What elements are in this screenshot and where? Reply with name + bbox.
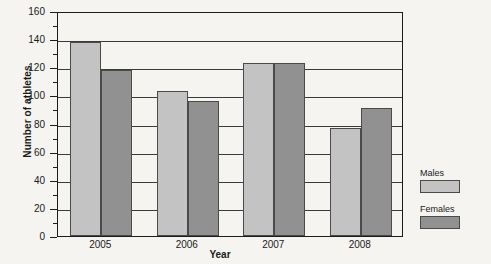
y-tick-major (50, 12, 57, 13)
y-tick-major (50, 40, 57, 41)
legend-item-males: Males (420, 168, 460, 193)
y-tick-major (50, 96, 57, 97)
bar-males-2005 (70, 42, 101, 236)
y-tick-minor (53, 167, 57, 168)
y-tick-minor (53, 139, 57, 140)
y-axis-title: Number of athletes (22, 22, 33, 202)
y-tick-major (50, 209, 57, 210)
bar-males-2007 (243, 63, 274, 236)
x-tick-label: 2005 (70, 239, 130, 250)
bar-males-2006 (157, 91, 188, 236)
y-tick-label: 60 (15, 148, 45, 158)
gridline (58, 41, 402, 42)
bar-females-2005 (101, 70, 132, 236)
y-tick-label: 160 (15, 7, 45, 17)
legend-label-males: Males (420, 168, 460, 178)
y-tick-minor (53, 195, 57, 196)
y-tick-label: 80 (15, 120, 45, 130)
x-tick-label: 2008 (330, 239, 390, 250)
y-tick-label: 100 (15, 91, 45, 101)
y-tick-label: 40 (15, 176, 45, 186)
bar-females-2006 (188, 101, 219, 236)
y-tick-minor (53, 223, 57, 224)
y-tick-major (50, 68, 57, 69)
y-tick-minor (53, 110, 57, 111)
legend-label-females: Females (420, 204, 460, 214)
y-tick-label: 140 (15, 35, 45, 45)
y-tick-minor (53, 54, 57, 55)
bar-males-2008 (330, 128, 361, 236)
y-tick-major (50, 181, 57, 182)
bar-chart: Number of athletes 020406080100120140160… (0, 0, 491, 264)
y-tick-major (50, 125, 57, 126)
legend-swatch-males-icon (420, 180, 460, 193)
legend-swatch-females-icon (420, 216, 460, 229)
y-tick-label: 20 (15, 204, 45, 214)
bar-females-2008 (361, 108, 392, 236)
bar-females-2007 (274, 63, 305, 236)
y-tick-minor (53, 82, 57, 83)
y-tick-minor (53, 26, 57, 27)
legend-item-females: Females (420, 204, 460, 229)
x-axis-title: Year (180, 249, 260, 260)
y-tick-label: 0 (15, 232, 45, 242)
y-tick-major (50, 237, 57, 238)
plot-area (57, 12, 403, 237)
y-tick-major (50, 153, 57, 154)
y-tick-label: 120 (15, 63, 45, 73)
